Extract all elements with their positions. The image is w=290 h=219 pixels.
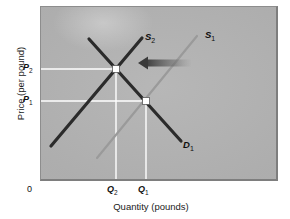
supply-demand-chart: S2 S1 D1 Price (per pound) Quantity (pou… bbox=[0, 0, 290, 219]
origin-label: 0 bbox=[27, 184, 32, 194]
curve-label-s2-sub: 2 bbox=[151, 37, 155, 44]
chart-canvas bbox=[41, 7, 278, 181]
curve-label-s1: S1 bbox=[205, 29, 215, 42]
equilibrium-marker-e2 bbox=[113, 66, 120, 73]
plot-area: S2 S1 D1 bbox=[40, 6, 278, 181]
shift-arrow-icon bbox=[138, 57, 191, 70]
x-tick-q2-sub: 2 bbox=[114, 189, 118, 196]
x-axis-label: Quantity (pounds) bbox=[95, 201, 207, 212]
curve-label-s1-sub: 1 bbox=[211, 35, 215, 42]
y-tick-p1-sub: 1 bbox=[29, 99, 33, 106]
y-tick-p1: P1 bbox=[23, 94, 33, 106]
x-tick-q1-text: Q bbox=[138, 184, 145, 194]
y-tick-p2: P2 bbox=[23, 62, 33, 74]
x-tick-q2-text: Q bbox=[107, 184, 114, 194]
x-tick-q1-sub: 1 bbox=[145, 189, 149, 196]
curve-label-d1: D1 bbox=[183, 139, 194, 152]
y-axis-label: Price (per pound) bbox=[15, 22, 26, 146]
x-tick-q1: Q1 bbox=[138, 184, 149, 196]
x-tick-q2: Q2 bbox=[107, 184, 118, 196]
equilibrium-marker-e1 bbox=[143, 98, 150, 105]
curve-label-s2: S2 bbox=[145, 31, 155, 44]
y-tick-p2-sub: 2 bbox=[29, 67, 33, 74]
curve-label-d1-text: D bbox=[183, 139, 190, 150]
curve-label-d1-sub: 1 bbox=[190, 145, 194, 152]
demand-curve-d1 bbox=[89, 39, 181, 141]
supply-curve-s2 bbox=[51, 38, 142, 146]
supply-curve-s1 bbox=[97, 36, 197, 158]
